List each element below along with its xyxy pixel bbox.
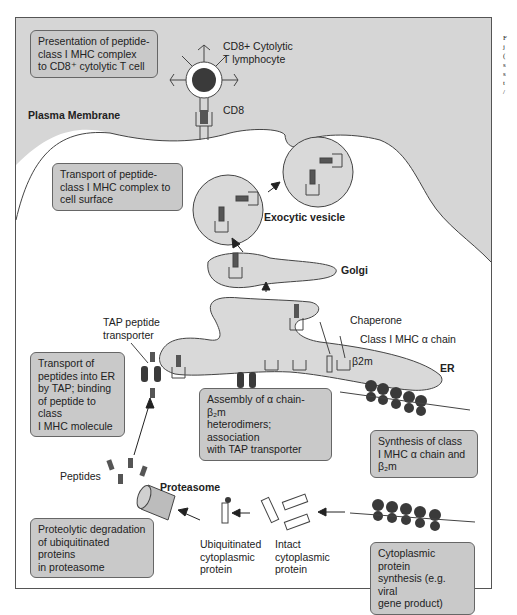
exocytic-vesicle-1: [193, 175, 263, 245]
box-line: I MHC molecule: [38, 420, 117, 433]
box-line: of peptide to class: [38, 395, 117, 420]
golgi-label: Golgi: [341, 264, 368, 277]
peptides-icon: [106, 458, 147, 484]
intact-protein-label: Intact cytoplasmic protein: [275, 538, 330, 576]
label-line: Ubiquitinated: [200, 538, 261, 551]
label-line: protein: [275, 563, 330, 576]
box-line: Synthesis of class: [378, 435, 470, 448]
box-line: Cytoplasmic protein: [378, 547, 467, 572]
exocytic-vesicle-2: [283, 137, 353, 207]
box-line: Presentation of peptide-: [38, 35, 150, 48]
cropped-side-text: F j ( s s t /: [503, 34, 507, 97]
side-char: s: [503, 70, 507, 79]
peptides-label: Peptides: [60, 470, 101, 483]
box-line: cell surface: [60, 193, 175, 206]
step-synthesis-mhc-box: Synthesis of class I MHC α chain and β₂m: [370, 430, 478, 478]
side-char: F: [503, 34, 507, 43]
box-line: class I MHC complex: [38, 48, 150, 61]
step-cytoplasmic-synthesis-box: Cytoplasmic protein synthesis (e.g. vira…: [370, 542, 475, 615]
label-line: transporter: [103, 329, 160, 342]
box-line: to CD8⁺ cytolytic T cell: [38, 60, 150, 73]
step-transport-surface-box: Transport of peptide- class I MHC comple…: [52, 163, 183, 211]
plasma-membrane-label: Plasma Membrane: [28, 109, 120, 122]
proteasome-label: Proteasome: [160, 481, 220, 494]
er-label: ER: [440, 362, 455, 375]
box-line: Transport of: [38, 357, 117, 370]
box-line: with TAP transporter: [207, 443, 324, 456]
b2m-label: β2m: [352, 355, 373, 368]
label-line: Intact: [275, 538, 330, 551]
box-line: by TAP; binding: [38, 382, 117, 395]
cd8-label: CD8: [223, 104, 244, 117]
label-line: protein: [200, 563, 261, 576]
box-line: class I MHC complex to: [60, 181, 175, 194]
side-char: s: [503, 61, 507, 70]
box-line: synthesis (e.g. viral: [378, 572, 467, 597]
golgi: [208, 253, 336, 288]
box-line: of ubiquitinated proteins: [38, 536, 146, 561]
side-char: j: [503, 43, 507, 52]
box-line: Proteolytic degradation: [38, 523, 146, 536]
chaperone-label: Chaperone: [350, 314, 402, 327]
step-presentation-box: Presentation of peptide- class I MHC com…: [30, 30, 158, 78]
label-line: T lymphocyte: [223, 53, 293, 66]
box-line: Transport of peptide-: [60, 168, 175, 181]
box-line: Assembly of α chain- β₂m: [207, 393, 324, 418]
side-char: (: [503, 52, 507, 61]
ubiquitinated-protein-label: Ubiquitinated cytoplasmic protein: [200, 538, 261, 576]
label-line: TAP peptide: [103, 316, 160, 329]
t-cell-label: CD8+ Cytolytic T lymphocyte: [223, 40, 293, 65]
box-line: heterodimers; association: [207, 418, 324, 443]
box-line: I MHC α chain and: [378, 448, 470, 461]
step-tap-transport-box: Transport of peptides into ER by TAP; bi…: [30, 352, 125, 437]
box-line: gene product): [378, 597, 467, 610]
label-line: CD8+ Cytolytic: [223, 40, 293, 53]
label-line: cytoplasmic: [275, 551, 330, 564]
step-degradation-box: Proteolytic degradation of ubiquitinated…: [30, 518, 154, 578]
label-line: cytoplasmic: [200, 551, 261, 564]
tap-transporter-label: TAP peptide transporter: [103, 316, 160, 341]
side-char: t: [503, 79, 507, 88]
mhc-chain-label: Class I MHC α chain: [360, 333, 456, 346]
box-line: peptides into ER: [38, 370, 117, 383]
exocytic-vesicle-label: Exocytic vesicle: [264, 211, 345, 224]
box-line: β₂m: [378, 460, 470, 473]
box-line: in proteasome: [38, 561, 146, 574]
side-char: /: [503, 88, 507, 97]
step-assembly-box: Assembly of α chain- β₂m heterodimers; a…: [199, 388, 332, 461]
